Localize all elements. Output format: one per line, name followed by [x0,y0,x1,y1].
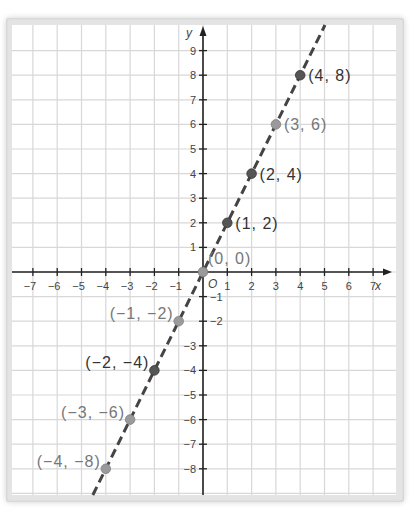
y-tick-label: 6 [190,118,196,130]
x-tick-label: 1 [224,280,230,292]
x-tick-label: −5 [72,280,85,292]
point-label: (−3, −6) [61,404,125,421]
y-axis-label: y [185,26,193,40]
point-label: (0, 0) [208,250,251,267]
point-label: (1, 2) [235,215,278,232]
data-point [125,415,135,425]
point-label: (−1, −2) [110,305,174,322]
y-tick-label: −5 [183,389,196,401]
y-tick-label: −3 [183,340,196,352]
y-tick-label: 1 [190,241,196,253]
point-label: (3, 6) [284,116,327,133]
point-label: (−2, −4) [85,354,149,371]
point-label: (−4, −8) [37,453,101,470]
y-tick-label: −7 [183,438,196,450]
y-tick-label: −6 [183,414,196,426]
x-tick-label: 6 [346,280,352,292]
x-tick-label: 3 [273,280,279,292]
x-axis-label: x [374,279,382,293]
x-tick-label: −7 [24,280,37,292]
x-tick-label: 2 [249,280,255,292]
point-label: (2, 4) [260,166,303,183]
x-tick-label: −6 [48,280,61,292]
x-tick-label: −3 [121,280,134,292]
y-tick-label: 5 [190,143,196,155]
x-tick-label: −1 [169,280,182,292]
plot-area [12,25,396,495]
x-tick-label: −2 [145,280,158,292]
x-tick-label: 4 [297,280,303,292]
y-tick-label: 8 [190,69,196,81]
coordinate-plane: −7−6−5−4−3−2−11234567−8−7−6−5−4−3−2−1123… [0,0,415,519]
y-tick-label: 7 [190,94,196,106]
data-point [101,464,111,474]
data-point [247,169,257,179]
origin-label: O [208,277,217,291]
y-tick-label: 4 [190,168,196,180]
y-tick-label: 2 [190,217,196,229]
point-label: (4, 8) [308,67,351,84]
data-point [150,366,160,376]
y-tick-label: 3 [190,192,196,204]
data-point [295,70,305,80]
data-point [198,267,208,277]
y-tick-label: −2 [210,315,223,327]
x-tick-label: −4 [97,280,110,292]
data-point [271,120,281,130]
y-tick-label: −1 [210,291,223,303]
y-tick-label: −8 [183,463,196,475]
x-tick-label: 5 [321,280,327,292]
y-tick-label: 9 [190,45,196,57]
data-point [174,316,184,326]
y-tick-label: −4 [183,364,196,376]
data-point [223,218,233,228]
